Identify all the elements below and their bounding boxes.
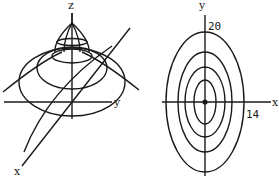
figure: z y x y x 20 14 [0, 0, 279, 184]
x-tick-label-14: 14 [246, 108, 260, 121]
x-axis-label-3d: x [14, 165, 21, 178]
surface-edge-right [82, 52, 139, 90]
x-axis-label-2d: x [272, 96, 279, 109]
z-axis-label: z [68, 0, 74, 12]
center-point [202, 99, 207, 104]
y-tick-label-20: 20 [208, 20, 221, 33]
y-axis-label-3d: y [113, 96, 121, 109]
left-panel-surface: z y x [3, 0, 139, 178]
y-axis-label-2d: y [198, 0, 206, 12]
right-panel-contours: y x 20 14 [162, 0, 279, 176]
